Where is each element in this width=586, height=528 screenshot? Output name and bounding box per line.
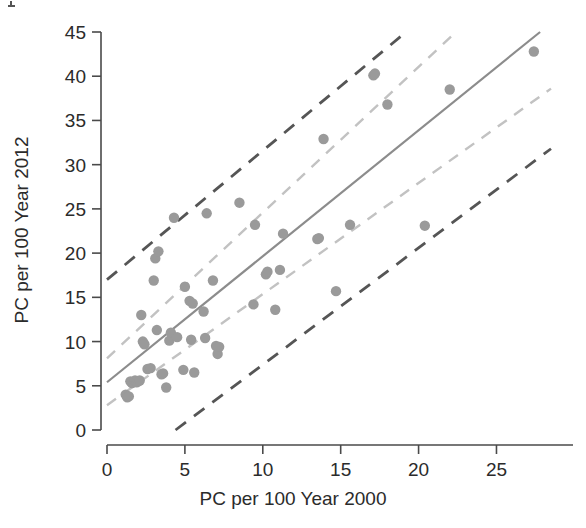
prediction-band-lower — [176, 149, 551, 430]
data-point — [200, 333, 210, 343]
confidence-band-upper — [107, 32, 456, 358]
x-tick-label: 0 — [102, 459, 113, 480]
data-point — [161, 382, 171, 392]
data-point — [420, 220, 430, 230]
y-tick-label: 5 — [75, 376, 86, 397]
data-point — [198, 306, 208, 316]
data-point — [178, 365, 188, 375]
data-point — [270, 305, 280, 315]
data-point — [158, 368, 168, 378]
y-tick-label: 45 — [65, 22, 86, 43]
y-axis-title: PC per 100 Year 2012 — [11, 137, 32, 324]
x-tick-label: 20 — [408, 459, 429, 480]
data-point — [278, 228, 288, 238]
y-tick-label: 20 — [65, 243, 86, 264]
data-point — [529, 46, 539, 56]
y-tick-label: 10 — [65, 332, 86, 353]
corner-artifact — [8, 1, 15, 7]
x-axis-title: PC per 100 Year 2000 — [200, 488, 387, 509]
data-point — [187, 298, 197, 308]
data-point — [172, 332, 182, 342]
data-point — [202, 208, 212, 218]
data-point — [275, 265, 285, 275]
data-point — [331, 286, 341, 296]
data-point — [370, 68, 380, 78]
data-point — [136, 310, 146, 320]
data-point — [214, 342, 224, 352]
data-point — [145, 363, 155, 373]
data-point — [124, 391, 134, 401]
data-point — [135, 375, 145, 385]
data-point — [318, 134, 328, 144]
data-point — [149, 275, 159, 285]
data-point — [208, 275, 218, 285]
x-tick-label: 25 — [486, 459, 507, 480]
data-point — [234, 197, 244, 207]
plot-canvas: 051015202530354045 0510152025 PC per 100… — [0, 0, 586, 528]
data-points — [120, 46, 539, 402]
y-tick-label: 15 — [65, 287, 86, 308]
y-tick-label: 25 — [65, 199, 86, 220]
x-tick-label: 15 — [330, 459, 351, 480]
data-point — [152, 325, 162, 335]
data-point — [180, 282, 190, 292]
data-point — [314, 233, 324, 243]
y-tick-label: 0 — [75, 420, 86, 441]
data-point — [169, 213, 179, 223]
y-axis: 051015202530354045 — [65, 22, 101, 441]
scatter-plot-figure: 051015202530354045 0510152025 PC per 100… — [0, 0, 586, 528]
data-point — [250, 220, 260, 230]
data-point — [248, 299, 258, 309]
data-point — [189, 367, 199, 377]
data-point — [139, 339, 149, 349]
interval-bands — [107, 32, 551, 430]
data-point — [382, 99, 392, 109]
x-tick-label: 5 — [180, 459, 191, 480]
data-point — [445, 84, 455, 94]
data-point — [186, 335, 196, 345]
y-tick-label: 35 — [65, 110, 86, 131]
confidence-band-lower — [107, 89, 551, 406]
x-tick-label: 10 — [252, 459, 273, 480]
x-axis: 0510152025 — [102, 445, 573, 480]
prediction-band-upper — [107, 32, 406, 280]
data-point — [345, 220, 355, 230]
data-point — [153, 246, 163, 256]
data-point — [262, 266, 272, 276]
y-tick-label: 40 — [65, 66, 86, 87]
y-tick-label: 30 — [65, 155, 86, 176]
